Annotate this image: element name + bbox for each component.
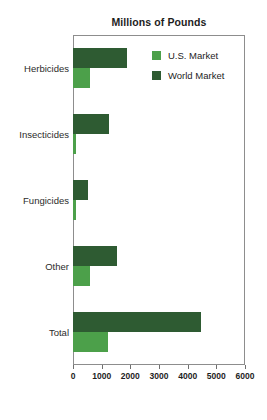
x-tick-5000 bbox=[216, 365, 217, 369]
bar-us-market-insecticides bbox=[73, 134, 245, 154]
x-tick-2000 bbox=[130, 365, 131, 369]
x-axis-tick-marks bbox=[73, 365, 245, 370]
category-label-total: Total bbox=[1, 327, 69, 338]
bar-fill bbox=[73, 266, 90, 286]
x-tick-0 bbox=[73, 365, 74, 369]
bar-us-market-other bbox=[73, 266, 245, 286]
category-label-fungicides: Fungicides bbox=[1, 195, 69, 206]
legend-label-us-market: U.S. Market bbox=[168, 50, 218, 61]
bar-world-market-other bbox=[73, 246, 245, 266]
legend-item-world-market: World Market bbox=[152, 70, 224, 81]
category-label-other: Other bbox=[1, 261, 69, 272]
bar-fill bbox=[73, 200, 76, 220]
x-tick-4000 bbox=[188, 365, 189, 369]
x-tick-label-3000: 3000 bbox=[150, 371, 169, 381]
bar-fill bbox=[73, 134, 76, 154]
bar-fill bbox=[73, 312, 201, 332]
bar-us-market-fungicides bbox=[73, 200, 245, 220]
x-tick-1000 bbox=[102, 365, 103, 369]
legend-swatch-world-market bbox=[152, 71, 161, 80]
category-label-herbicides: Herbicides bbox=[1, 63, 69, 74]
bar-fill bbox=[73, 68, 90, 88]
bar-chart-figure: Millions of Pounds HerbicidesInsecticide… bbox=[0, 0, 267, 420]
chart-title: Millions of Pounds bbox=[73, 16, 245, 28]
legend-item-us-market: U.S. Market bbox=[152, 50, 224, 61]
bar-fill bbox=[73, 114, 109, 134]
bar-world-market-total bbox=[73, 312, 245, 332]
bar-fill bbox=[73, 48, 127, 68]
x-axis-tick-labels: 0100020003000400050006000 bbox=[73, 371, 245, 385]
category-axis-labels: HerbicidesInsecticidesFungicidesOtherTot… bbox=[0, 0, 69, 420]
chart-legend: U.S. Market World Market bbox=[152, 50, 224, 90]
bar-fill bbox=[73, 180, 88, 200]
bar-us-market-total bbox=[73, 332, 245, 352]
bar-world-market-fungicides bbox=[73, 180, 245, 200]
x-tick-label-2000: 2000 bbox=[121, 371, 140, 381]
bar-fill bbox=[73, 246, 117, 266]
x-tick-label-6000: 6000 bbox=[236, 371, 255, 381]
x-tick-label-4000: 4000 bbox=[178, 371, 197, 381]
legend-swatch-us-market bbox=[152, 51, 161, 60]
bar-world-market-insecticides bbox=[73, 114, 245, 134]
category-label-insecticides: Insecticides bbox=[1, 129, 69, 140]
x-tick-label-0: 0 bbox=[71, 371, 76, 381]
x-tick-3000 bbox=[159, 365, 160, 369]
x-tick-6000 bbox=[245, 365, 246, 369]
x-tick-label-1000: 1000 bbox=[92, 371, 111, 381]
bar-fill bbox=[73, 332, 108, 352]
x-tick-label-5000: 5000 bbox=[207, 371, 226, 381]
legend-label-world-market: World Market bbox=[168, 70, 224, 81]
